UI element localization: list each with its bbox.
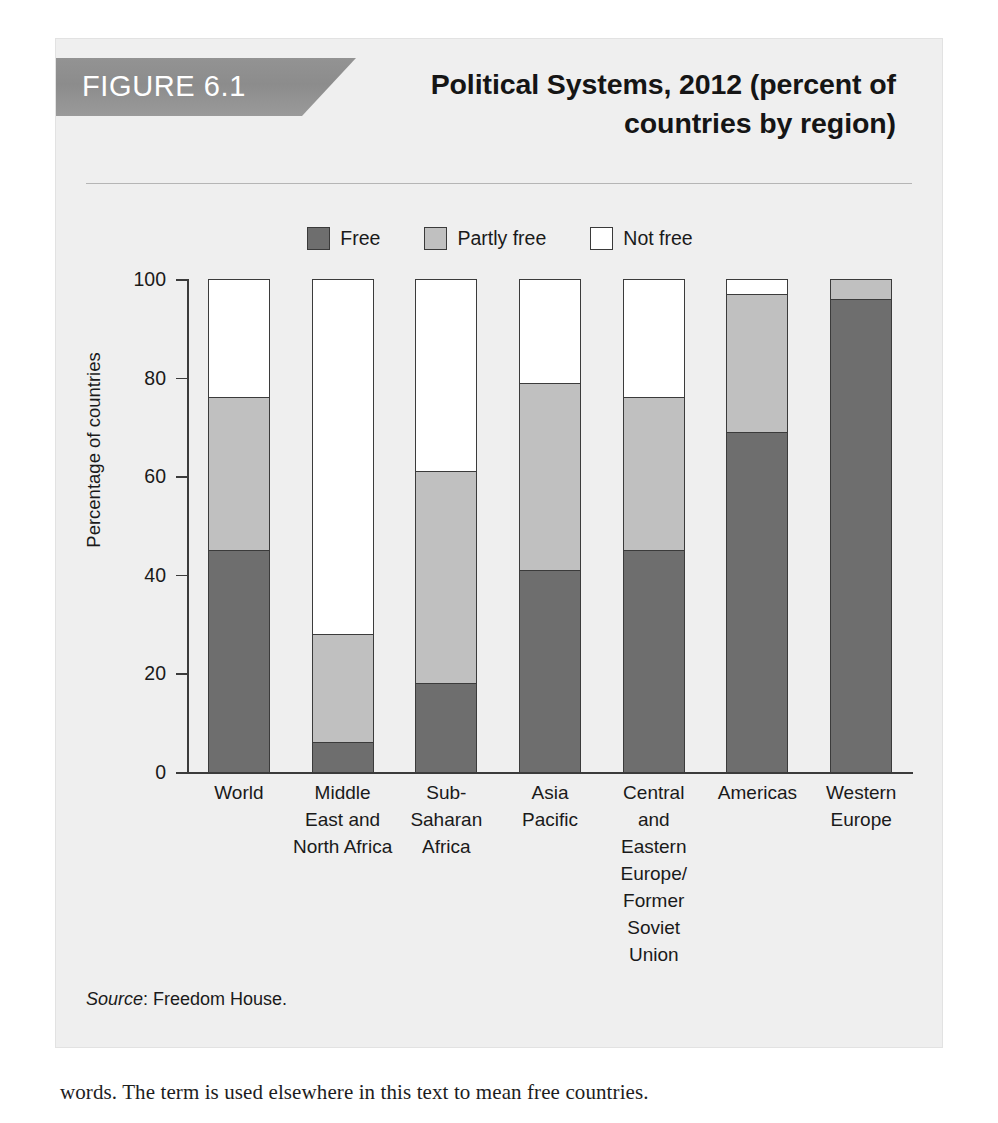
bar-segment-not-free[interactable]: [726, 279, 788, 294]
x-axis-label-line: Pacific: [499, 807, 601, 834]
bar-segment-not-free[interactable]: [519, 279, 581, 383]
bar-segment-not-free[interactable]: [312, 279, 374, 634]
x-axis-label-line: Africa: [395, 834, 497, 861]
stacked-bar[interactable]: [415, 279, 477, 772]
bar-segment-free[interactable]: [415, 683, 477, 772]
bar-column[interactable]: [706, 279, 810, 772]
bar-segment-partly-free[interactable]: [208, 397, 270, 550]
x-axis-label-line: Asia: [499, 780, 601, 807]
bar-column[interactable]: [394, 279, 498, 772]
bar-segment-free[interactable]: [312, 742, 374, 772]
bar-segment-not-free[interactable]: [623, 279, 685, 397]
x-axis-label-line: Central: [603, 780, 705, 807]
x-axis-label: AsiaPacific: [498, 780, 602, 834]
bar-column[interactable]: [498, 279, 602, 772]
x-axis-label-line: Soviet Union: [603, 915, 705, 969]
source-note: Source: Freedom House.: [86, 989, 287, 1010]
x-axis-label-line: East and: [292, 807, 394, 834]
x-axis-label-line: Saharan: [395, 807, 497, 834]
x-axis-label-line: North Africa: [292, 834, 394, 861]
x-axis-label-line: Europe/: [603, 861, 705, 888]
bar-segment-free[interactable]: [208, 550, 270, 772]
stacked-bar[interactable]: [623, 279, 685, 772]
stacked-bar[interactable]: [208, 279, 270, 772]
x-axis-label-line: Former: [603, 888, 705, 915]
stacked-bar[interactable]: [830, 279, 892, 772]
bar-segment-partly-free[interactable]: [312, 634, 374, 742]
x-axis-label-line: World: [188, 780, 290, 807]
x-axis-labels: WorldMiddleEast andNorth AfricaSub-Sahar…: [187, 780, 913, 969]
x-axis-label-line: Sub-: [395, 780, 497, 807]
x-axis-label-line: Western: [810, 780, 912, 807]
x-axis-label: CentralandEasternEurope/FormerSoviet Uni…: [602, 780, 706, 969]
source-value: : Freedom House.: [143, 989, 287, 1009]
x-axis-label: WesternEurope: [809, 780, 913, 834]
stacked-bar[interactable]: [312, 279, 374, 772]
bar-column[interactable]: [187, 279, 291, 772]
x-axis-label: MiddleEast andNorth Africa: [291, 780, 395, 861]
bar-column[interactable]: [602, 279, 706, 772]
stacked-bar[interactable]: [726, 279, 788, 772]
y-axis-tick: [176, 772, 188, 774]
x-axis-label: Americas: [706, 780, 810, 807]
x-axis-label-line: Middle: [292, 780, 394, 807]
x-axis-label: World: [187, 780, 291, 807]
bar-segment-not-free[interactable]: [208, 279, 270, 397]
bar-segment-free[interactable]: [623, 550, 685, 772]
chart-plot-area: Percentage of countries 020406080100 Wor…: [56, 39, 944, 1049]
bar-segment-free[interactable]: [726, 432, 788, 772]
stacked-bar[interactable]: [519, 279, 581, 772]
bar-segment-free[interactable]: [830, 299, 892, 772]
x-axis-label-line: Americas: [707, 780, 809, 807]
y-axis-tick-label: 40: [100, 564, 166, 587]
y-axis-tick-label: 100: [100, 268, 166, 291]
stacked-bars: [187, 279, 913, 772]
y-axis-title: Percentage of countries: [83, 240, 105, 660]
bar-segment-partly-free[interactable]: [415, 471, 477, 683]
x-axis-label-line: and: [603, 807, 705, 834]
y-axis-tick-label: 60: [100, 465, 166, 488]
x-axis-label: Sub-SaharanAfrica: [394, 780, 498, 861]
y-axis-tick-label: 80: [100, 367, 166, 390]
x-axis-label-line: Europe: [810, 807, 912, 834]
source-label: Source: [86, 989, 143, 1009]
x-axis-line: [187, 772, 913, 774]
bar-segment-free[interactable]: [519, 570, 581, 772]
page-body-caption: words. The term is used elsewhere in thi…: [60, 1080, 940, 1105]
bar-segment-not-free[interactable]: [415, 279, 477, 471]
bar-segment-partly-free[interactable]: [623, 397, 685, 550]
y-axis-tick-label: 0: [100, 761, 166, 784]
bar-segment-partly-free[interactable]: [830, 279, 892, 299]
bar-segment-partly-free[interactable]: [519, 383, 581, 570]
bar-segment-partly-free[interactable]: [726, 294, 788, 432]
bar-column[interactable]: [291, 279, 395, 772]
x-axis-label-line: Eastern: [603, 834, 705, 861]
figure-card: FIGURE 6.1 Political Systems, 2012 (perc…: [55, 38, 943, 1048]
y-axis-tick-label: 20: [100, 662, 166, 685]
bar-column[interactable]: [809, 279, 913, 772]
